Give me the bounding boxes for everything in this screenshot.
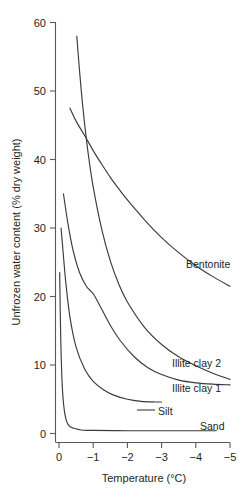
x-tick-label-minus2: −2 bbox=[121, 451, 134, 463]
x-axis-tick-labels: 0 −1 −2 −3 −4 −5 bbox=[56, 451, 236, 463]
x-axis-title: Temperature (°C) bbox=[102, 472, 186, 484]
x-tick-label-minus5: −5 bbox=[224, 451, 237, 463]
y-tick-label-10: 10 bbox=[34, 359, 46, 371]
y-tick-label-60: 60 bbox=[34, 17, 46, 29]
curve-illite-clay-2 bbox=[77, 36, 230, 379]
series-label-illite-clay-2: Illite clay 2 bbox=[172, 357, 221, 369]
series-label-silt: Silt bbox=[158, 405, 173, 417]
series-label-bentonite: Bentonite bbox=[186, 258, 231, 270]
y-tick-label-30: 30 bbox=[34, 222, 46, 234]
data-curves bbox=[60, 36, 230, 431]
x-tick-label-minus3: −3 bbox=[155, 451, 168, 463]
x-axis-ticks bbox=[59, 443, 230, 449]
y-axis-tick-labels: 60 50 40 30 20 10 0 bbox=[34, 17, 46, 440]
x-tick-label-0: 0 bbox=[56, 451, 62, 463]
curve-silt bbox=[61, 228, 162, 402]
series-labels: Bentonite Illite clay 2 Illite clay 1 Si… bbox=[158, 258, 231, 432]
y-tick-label-20: 20 bbox=[34, 291, 46, 303]
y-axis-title: Unfrozen water content (% dry weight) bbox=[10, 138, 22, 325]
chart-figure: 60 50 40 30 20 10 0 0 −1 −2 −3 −4 −5 Te bbox=[0, 0, 251, 498]
x-tick-label-minus1: −1 bbox=[87, 451, 100, 463]
series-label-sand: Sand bbox=[200, 420, 225, 432]
y-tick-label-50: 50 bbox=[34, 85, 46, 97]
y-tick-label-40: 40 bbox=[34, 154, 46, 166]
y-axis-ticks bbox=[50, 23, 56, 434]
series-label-illite-clay-1: Illite clay 1 bbox=[172, 382, 221, 394]
x-tick-label-minus4: −4 bbox=[190, 451, 203, 463]
curve-sand bbox=[60, 273, 217, 431]
y-tick-label-0: 0 bbox=[40, 428, 46, 440]
unfrozen-water-content-chart: 60 50 40 30 20 10 0 0 −1 −2 −3 −4 −5 Te bbox=[0, 0, 251, 498]
